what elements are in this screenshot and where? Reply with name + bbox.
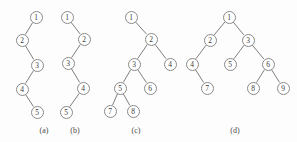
tree-node: 5 <box>224 58 237 71</box>
tree-edge <box>123 94 130 106</box>
tree-edge <box>71 69 79 83</box>
tree-edge <box>123 70 130 83</box>
subfigure-caption: (b) <box>70 126 79 135</box>
tree-edge <box>72 44 81 57</box>
tree-node: 4 <box>186 58 199 71</box>
tree-node: 8 <box>127 105 140 118</box>
subfigure-caption: (a) <box>40 126 49 135</box>
subfigure-caption: (d) <box>230 126 239 135</box>
tree-edge <box>25 46 33 60</box>
tree-edge <box>138 44 148 58</box>
tree-node: 1 <box>223 11 236 24</box>
tree-node: 7 <box>104 105 117 118</box>
tree-edge <box>26 94 34 106</box>
tree-edge <box>233 22 244 35</box>
tree-node: 4 <box>16 83 29 96</box>
tree-edge <box>155 44 166 59</box>
tree-edge <box>25 23 32 35</box>
tree-node: 2 <box>16 34 29 47</box>
tree-node: 1 <box>30 11 43 24</box>
tree-node: 3 <box>128 58 141 71</box>
tree-node: 3 <box>62 57 75 70</box>
tree-edge <box>113 94 118 105</box>
tree-node: 3 <box>242 34 255 47</box>
tree-node: 2 <box>204 34 217 47</box>
tree-edge <box>138 69 147 82</box>
tree-edge <box>234 45 244 59</box>
binary-tree-figure: 12345(a)12345(b)12345678(c)123456789(d) <box>0 0 297 142</box>
tree-edge <box>25 71 33 84</box>
tree-edge <box>70 93 79 106</box>
tree-edge <box>256 70 264 83</box>
tree-node: 6 <box>262 58 275 71</box>
tree-node: 8 <box>247 82 260 95</box>
tree-node: 4 <box>77 82 90 95</box>
tree-edge <box>214 22 225 35</box>
tree-node: 1 <box>61 11 74 24</box>
tree-node: 4 <box>164 58 177 71</box>
tree-node: 1 <box>125 11 138 24</box>
tree-edge <box>271 70 279 83</box>
tree-edge <box>196 45 206 59</box>
tree-node: 2 <box>78 33 91 46</box>
tree-edges-layer <box>0 0 297 142</box>
tree-edge <box>195 70 203 83</box>
tree-node: 2 <box>145 33 158 46</box>
tree-node: 9 <box>277 82 290 95</box>
tree-node: 7 <box>201 82 214 95</box>
tree-node: 6 <box>144 82 157 95</box>
subfigure-caption: (c) <box>132 126 141 135</box>
tree-edge <box>252 45 264 59</box>
tree-node: 5 <box>31 106 44 119</box>
tree-node: 5 <box>114 82 127 95</box>
tree-node: 3 <box>31 59 44 72</box>
tree-edge <box>71 22 80 34</box>
tree-edge <box>135 22 146 34</box>
tree-node: 5 <box>60 106 73 119</box>
